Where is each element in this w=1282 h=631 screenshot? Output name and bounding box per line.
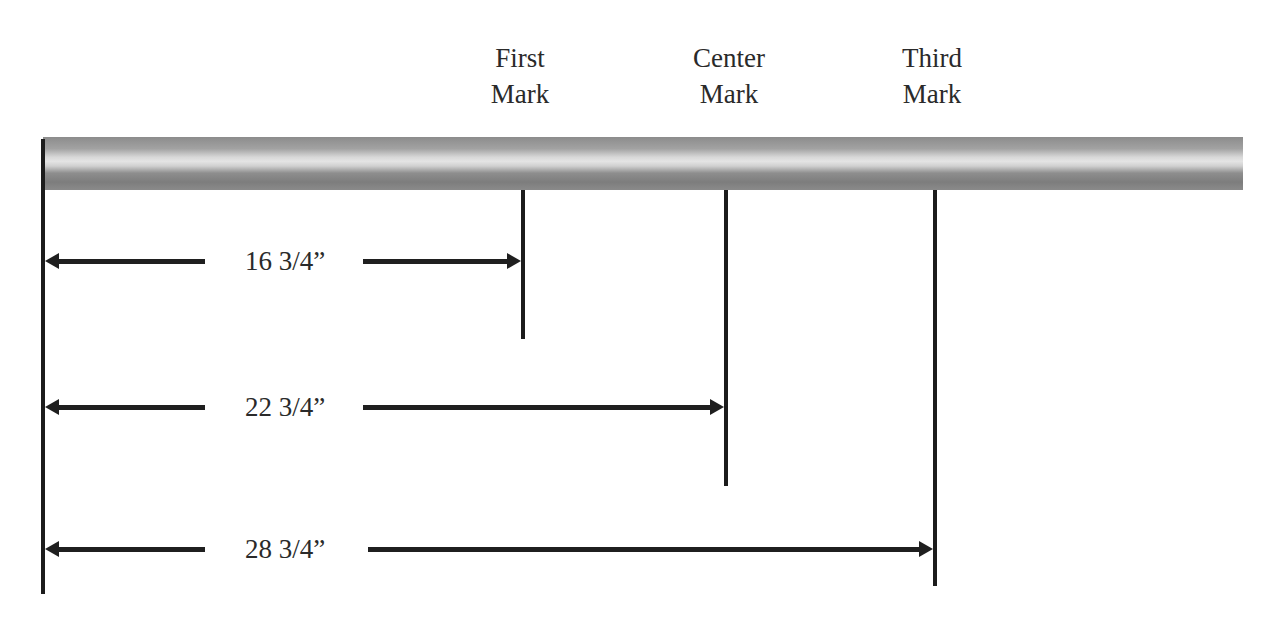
dimension-line-third-left: [58, 547, 205, 552]
dimension-line-center-left: [58, 405, 205, 410]
third-mark-distance: 28 3/4”: [205, 533, 365, 565]
third-mark-line: [933, 190, 937, 586]
third-mark-label-line2: Mark: [862, 76, 1002, 112]
dimension-line-center-right: [363, 405, 711, 410]
arrowhead-right-icon: [507, 253, 521, 269]
center-mark-label: Center Mark: [659, 40, 799, 112]
first-mark-distance: 16 3/4”: [205, 245, 365, 277]
center-mark-label-line2: Mark: [659, 76, 799, 112]
left-edge-line: [41, 139, 45, 594]
arrowhead-right-icon: [919, 541, 933, 557]
dimension-line-third-right: [368, 547, 920, 552]
third-mark-label: Third Mark: [862, 40, 1002, 112]
third-mark-label-line1: Third: [862, 40, 1002, 76]
arrowhead-right-icon: [710, 399, 724, 415]
center-mark-distance: 22 3/4”: [205, 391, 365, 423]
arrowhead-left-icon: [45, 541, 59, 557]
center-mark-label-line1: Center: [659, 40, 799, 76]
first-mark-line: [521, 190, 525, 339]
arrowhead-left-icon: [45, 399, 59, 415]
first-mark-label-line1: First: [450, 40, 590, 76]
center-mark-line: [724, 190, 728, 486]
dimension-line-first-left: [58, 259, 205, 264]
arrowhead-left-icon: [45, 253, 59, 269]
rod: [43, 137, 1243, 190]
first-mark-label: First Mark: [450, 40, 590, 112]
dimension-line-first-right: [363, 259, 508, 264]
first-mark-label-line2: Mark: [450, 76, 590, 112]
